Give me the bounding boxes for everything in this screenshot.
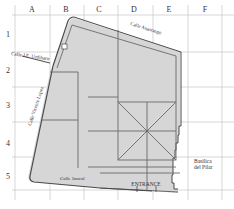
row-label-3: 3 <box>6 101 10 110</box>
row-label-4: 4 <box>6 139 10 148</box>
cemetery-map: A B C D E F 1 2 3 4 5 <box>0 0 234 209</box>
row-label-1: 1 <box>6 30 10 39</box>
column-label-d: D <box>131 5 137 14</box>
column-label-c: C <box>96 5 101 14</box>
column-label-e: E <box>167 5 172 14</box>
column-label-b: B <box>63 5 68 14</box>
street-label-top: Calle Anastasgo <box>130 21 163 35</box>
row-label-5: 5 <box>6 172 10 181</box>
street-label-bottom: Calle Juncal <box>60 176 85 181</box>
street-label-top-left: Calle J.E. Urdibarn <box>11 51 50 61</box>
row-label-2: 2 <box>6 66 10 75</box>
basilica-label-line2: del Pilar <box>194 164 213 170</box>
column-label-a: A <box>29 5 35 14</box>
entrance-label: ENTRANCE <box>131 181 161 187</box>
marker-square-icon <box>62 44 67 49</box>
column-label-f: F <box>203 5 208 14</box>
